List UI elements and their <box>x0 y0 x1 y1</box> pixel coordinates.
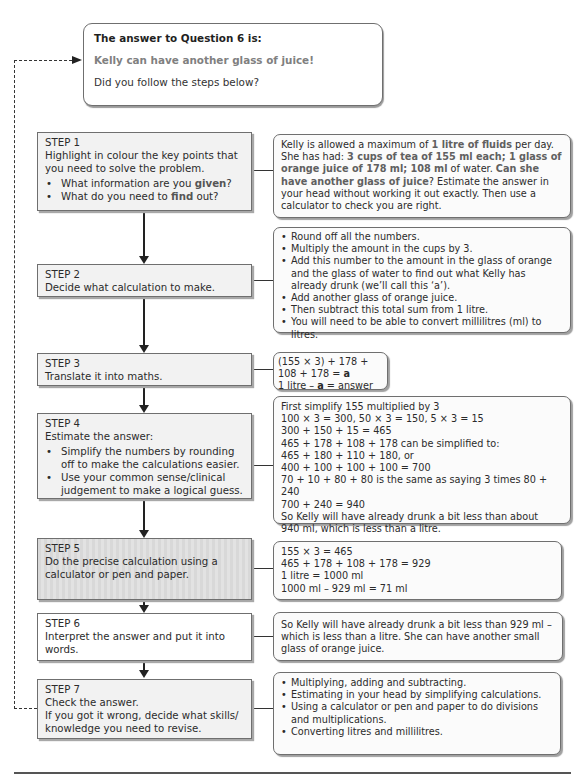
step-1-label: STEP 1 <box>45 136 244 149</box>
step-3-detail: (155 × 3) + 178 + 108 + 178 = a 1 litre … <box>273 352 388 390</box>
step4-connector <box>252 465 273 466</box>
flow-connector <box>143 296 145 345</box>
step-6-text: Interpret the answer and put it into wor… <box>45 630 244 656</box>
bottom-rule <box>14 772 571 774</box>
answer-box: The answer to Question 6 is: Kelly can h… <box>83 23 383 106</box>
step-1-bullets: What information are you given? What do … <box>45 177 244 203</box>
step1-connector <box>252 170 273 171</box>
step-2-detail: Round off all the numbers. Multiply the … <box>273 227 571 333</box>
flow-connector <box>143 498 145 530</box>
step-2-box: STEP 2 Decide what calculation to make. <box>37 264 252 297</box>
step-1-bullet: What information are you given? <box>56 177 244 190</box>
step-1-detail: Kelly is allowed a maximum of 1 litre of… <box>273 134 571 218</box>
step-1-text: Highlight in colour the key points that … <box>45 149 244 175</box>
step-1-box: STEP 1 Highlight in colour the key point… <box>37 132 252 211</box>
step-1-bullet: What do you need to find out? <box>56 190 244 203</box>
detail-bullet: Converting litres and millilitres. <box>288 726 553 738</box>
loop-back-dashed-line-top <box>14 60 72 61</box>
detail-bullet: Estimating in your head by simplifying c… <box>288 689 553 701</box>
detail-bullet: Then subtract this total sum from 1 litr… <box>288 304 563 316</box>
step-6-label: STEP 6 <box>45 617 244 630</box>
step-6-box: STEP 6 Interpret the answer and put it i… <box>37 613 252 661</box>
arrow-down-icon <box>139 605 149 613</box>
loop-back-dashed-line <box>14 60 15 709</box>
step-5-detail: 155 × 3 = 465 465 + 178 + 108 + 178 = 92… <box>273 541 562 600</box>
arrow-down-icon <box>139 256 149 264</box>
step-7-detail: Multiplying, adding and subtracting. Est… <box>273 672 561 755</box>
step-7-text2: If you got it wrong, decide what skills/… <box>45 709 244 735</box>
loop-back-dashed-line-bottom <box>14 708 37 709</box>
step7-connector <box>252 708 273 709</box>
step-5-label: STEP 5 <box>45 542 244 555</box>
arrow-down-icon <box>139 405 149 413</box>
flow-connector <box>143 385 145 405</box>
step-4-bullet: Use your common sense/clinical judgement… <box>56 471 244 497</box>
detail-bullet: Round off all the numbers. <box>288 231 563 243</box>
step-4-label: STEP 4 <box>45 417 244 430</box>
step5-connector <box>252 568 273 569</box>
arrow-down-icon <box>139 345 149 353</box>
step-4-text: Estimate the answer: <box>45 430 244 443</box>
answer-title: The answer to Question 6 is: <box>94 32 372 44</box>
detail-bullet: Multiplying, adding and subtracting. <box>288 677 553 689</box>
step-2-text: Decide what calculation to make. <box>45 281 244 294</box>
flow-connector <box>143 660 145 670</box>
step-4-detail: First simplify 155 multiplied by 3 100 ×… <box>273 396 571 524</box>
loop-back-arrow-icon <box>72 56 82 64</box>
answer-text: Kelly can have another glass of juice! <box>94 54 372 66</box>
step-5-box: STEP 5 Do the precise calculation using … <box>37 538 252 600</box>
detail-bullet: Add another glass of orange juice. <box>288 292 563 304</box>
detail-bullet: Using a calculator or pen and paper to d… <box>288 701 553 725</box>
arrow-down-icon <box>139 530 149 538</box>
step6-connector <box>252 636 273 637</box>
step2-connector <box>252 280 273 281</box>
step3-connector <box>252 369 273 370</box>
arrow-down-icon <box>139 670 149 678</box>
step-7-label: STEP 7 <box>45 683 244 696</box>
step-3-box: STEP 3 Translate it into maths. <box>37 353 252 386</box>
detail-bullet: Multiply the amount in the cups by 3. <box>288 243 563 255</box>
answer-question: Did you follow the steps below? <box>94 76 372 88</box>
step-3-text: Translate it into maths. <box>45 370 244 383</box>
step-4-bullet: Simplify the numbers by rounding off to … <box>56 445 244 471</box>
step-3-label: STEP 3 <box>45 357 244 370</box>
step-7-text: Check the answer. <box>45 696 244 709</box>
step-7-box: STEP 7 Check the answer. If you got it w… <box>37 679 252 739</box>
step-6-detail: So Kelly will have already drunk a bit l… <box>273 612 563 661</box>
detail-bullet: Add this number to the amount in the gla… <box>288 255 563 292</box>
step-4-box: STEP 4 Estimate the answer: Simplify the… <box>37 413 252 499</box>
step-2-label: STEP 2 <box>45 268 244 281</box>
detail-bullet: You will need to be able to convert mill… <box>288 316 563 340</box>
step-5-text: Do the precise calculation using a calcu… <box>45 555 244 581</box>
flow-connector <box>143 210 145 256</box>
